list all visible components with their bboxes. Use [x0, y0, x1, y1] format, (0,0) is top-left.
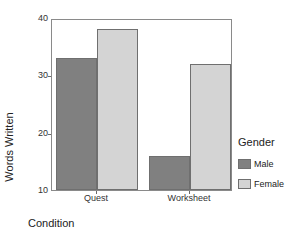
- y-axis-ticks: 10203040: [22, 0, 48, 245]
- legend-item-female: Female: [238, 178, 294, 189]
- y-tick-label: 20: [26, 129, 48, 138]
- x-tick-label: Worksheet: [149, 193, 229, 204]
- bars-layer: [52, 20, 231, 190]
- x-tick-mark: [189, 191, 190, 194]
- y-tick-label: 40: [26, 14, 48, 23]
- plot-area: [51, 19, 232, 191]
- x-axis-ticks: QuestWorksheet: [51, 193, 232, 207]
- bar-worksheet-male: [149, 156, 190, 190]
- bar-quest-male: [56, 58, 97, 190]
- legend-entries: MaleFemale: [238, 158, 294, 189]
- x-axis-title: Condition: [28, 216, 74, 230]
- legend-title: Gender: [238, 136, 294, 149]
- legend-label: Male: [254, 159, 274, 169]
- legend: Gender MaleFemale: [238, 136, 294, 198]
- y-tick-label: 10: [26, 186, 48, 195]
- bar-chart: Words Written 10203040 QuestWorksheet Co…: [0, 0, 294, 245]
- legend-swatch-male: [238, 159, 251, 169]
- y-axis-title: Words Written: [2, 92, 16, 202]
- x-tick-mark: [96, 191, 97, 194]
- legend-swatch-female: [238, 179, 251, 189]
- y-tick-label: 30: [26, 71, 48, 80]
- bar-quest-female: [97, 29, 138, 190]
- legend-item-male: Male: [238, 158, 294, 169]
- x-tick-label: Quest: [56, 193, 136, 204]
- legend-label: Female: [254, 179, 284, 189]
- bar-worksheet-female: [190, 64, 231, 190]
